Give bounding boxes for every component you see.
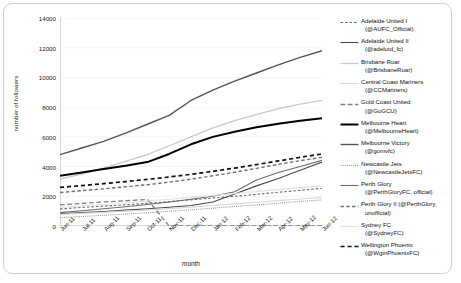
legend-label-handle: (@adelutd_fc) xyxy=(361,45,453,53)
plot-area-wrapper: number of followers 02000400060008000100… xyxy=(4,4,339,273)
legend-label: Adelaide United I(@AUFC_Official) xyxy=(361,17,453,33)
legend-line-swatch xyxy=(340,38,359,47)
y-tick-label: 4000 xyxy=(20,163,56,170)
legend-label: Brisbane Roar(@BrisbaneRoar) xyxy=(361,58,453,74)
y-axis-title: number of followers xyxy=(12,59,19,149)
legend-label-handle: (@CCMariners) xyxy=(361,86,453,94)
legend-line-swatch xyxy=(340,100,359,109)
x-axis-title: month xyxy=(60,260,322,267)
legend-label: Perth Glory II (@PerthGlory,unofficial) xyxy=(361,200,453,216)
legend-line-swatch xyxy=(340,242,359,251)
legend-item[interactable]: Perth Glory(@PerthGloryFC, official) xyxy=(340,181,453,190)
chart-legend: Adelaide United I(@AUFC_Official)Adelaid… xyxy=(340,18,453,268)
legend-label-team: Wellington Phoenix xyxy=(361,241,453,249)
legend-line-swatch xyxy=(340,202,359,211)
legend-label: Central Coast Mariners(@CCMariners) xyxy=(361,78,453,94)
legend-item[interactable]: Adelaide United II(@adelutd_fc) xyxy=(340,38,453,47)
legend-line-swatch xyxy=(340,222,359,231)
y-axis-tick-labels: 02000400060008000100001200014000 xyxy=(20,18,56,226)
series-line xyxy=(60,118,322,175)
legend-item[interactable]: Newcastle Jets(@NewcastleJetsFC) xyxy=(340,161,453,170)
legend-label-handle: (@WgtnPhoenixFC) xyxy=(361,249,453,257)
legend-label: Melbourne Victory(@gomvfc) xyxy=(361,139,453,155)
y-tick-label: 2000 xyxy=(20,193,56,200)
legend-label-team: Sydney FC xyxy=(361,221,453,229)
legend-label-handle: (@MelbourneHeart) xyxy=(361,127,453,135)
x-axis-tick-labels: Jun-11Jul-11Aug-11Sep-11Oct-11Nov-11Dec-… xyxy=(60,228,322,258)
plot-area xyxy=(60,18,322,226)
legend-label-team: Melbourne Victory xyxy=(361,139,453,147)
legend-label-handle: (@GoGCU) xyxy=(361,107,453,115)
legend-label: Adelaide United II(@adelutd_fc) xyxy=(361,37,453,53)
y-tick-label: 12000 xyxy=(20,44,56,51)
legend-item[interactable]: Brisbane Roar(@BrisbaneRoar) xyxy=(340,59,453,68)
legend-label-handle: (@NewcastleJetsFC) xyxy=(361,168,453,176)
legend-line-swatch xyxy=(340,140,359,149)
legend-label-team: Newcastle Jets xyxy=(361,160,453,168)
legend-label-team: Perth Glory II (@PerthGlory, xyxy=(361,200,453,208)
legend-label-team: Central Coast Mariners xyxy=(361,78,453,86)
y-tick-label: 6000 xyxy=(20,133,56,140)
legend-line-swatch xyxy=(340,59,359,68)
legend-label-handle: (@SydneyFC) xyxy=(361,229,453,237)
legend-label-handle: (@gomvfc) xyxy=(361,147,453,155)
legend-item[interactable]: Sydney FC(@SydneyFC) xyxy=(340,222,453,231)
series-line xyxy=(60,186,322,208)
legend-line-swatch xyxy=(340,161,359,170)
chart-container: number of followers 02000400060008000100… xyxy=(3,3,452,274)
legend-label-handle: (@AUFC_Official) xyxy=(361,25,453,33)
y-tick-label: 14000 xyxy=(20,15,56,22)
legend-item[interactable]: Melbourne Victory(@gomvfc) xyxy=(340,140,453,149)
legend-label: Wellington Phoenix(@WgtnPhoenixFC) xyxy=(361,241,453,257)
legend-line-swatch xyxy=(340,120,359,129)
legend-label-team: Brisbane Roar xyxy=(361,58,453,66)
legend-item[interactable]: Wellington Phoenix(@WgtnPhoenixFC) xyxy=(340,242,453,251)
legend-line-swatch xyxy=(340,79,359,88)
legend-label-handle: (@PerthGloryFC, official) xyxy=(361,188,453,196)
y-tick-label: 10000 xyxy=(20,74,56,81)
legend-item[interactable]: Perth Glory II (@PerthGlory,unofficial) xyxy=(340,202,453,211)
y-tick-label: 0 xyxy=(20,223,56,230)
legend-item[interactable]: Adelaide United I(@AUFC_Official) xyxy=(340,18,453,27)
x-tick-label: Jun-12 xyxy=(321,215,338,232)
legend-label: Newcastle Jets(@NewcastleJetsFC) xyxy=(361,160,453,176)
legend-label-team: Perth Glory xyxy=(361,180,453,188)
legend-line-swatch xyxy=(340,18,359,27)
legend-label: Sydney FC(@SydneyFC) xyxy=(361,221,453,237)
legend-line-swatch xyxy=(340,181,359,190)
legend-label: Gold Coast United(@GoGCU) xyxy=(361,98,453,114)
series-line xyxy=(60,100,322,179)
y-tick-label: 8000 xyxy=(20,104,56,111)
legend-item[interactable]: Gold Coast United(@GoGCU) xyxy=(340,100,453,109)
legend-label-team: Melbourne Heart xyxy=(361,119,453,127)
legend-label: Melbourne Heart(@MelbourneHeart) xyxy=(361,119,453,135)
series-line xyxy=(60,157,322,192)
legend-item[interactable]: Melbourne Heart(@MelbourneHeart) xyxy=(340,120,453,129)
legend-label-team: Adelaide United II xyxy=(361,37,453,45)
legend-label: Perth Glory(@PerthGloryFC, official) xyxy=(361,180,453,196)
legend-label-handle: (@BrisbaneRoar) xyxy=(361,66,453,74)
legend-label-handle: unofficial) xyxy=(361,209,453,217)
legend-label-team: Adelaide United I xyxy=(361,17,453,25)
legend-item[interactable]: Central Coast Mariners(@CCMariners) xyxy=(340,79,453,88)
legend-label-team: Gold Coast United xyxy=(361,98,453,106)
series-line xyxy=(60,51,322,155)
